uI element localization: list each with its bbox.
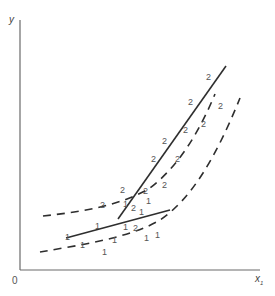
solid-boundary-class-2	[118, 66, 226, 219]
point-label-1: 1	[155, 230, 160, 240]
point-label-2: 2	[188, 97, 193, 107]
point-label-1: 1	[102, 247, 107, 257]
point-label-2: 2	[175, 154, 180, 164]
point-label-2: 2	[162, 180, 167, 190]
point-label-2: 2	[218, 101, 223, 111]
point-label-1: 1	[144, 233, 149, 243]
point-label-2: 2	[133, 223, 138, 233]
x-axis-label: x1	[254, 273, 263, 286]
point-label-2: 2	[151, 154, 156, 164]
dashed-curve-lower	[40, 98, 240, 252]
point-label-2: 2	[183, 125, 188, 135]
point-label-1: 1	[112, 235, 117, 245]
point-label-2: 2	[162, 136, 167, 146]
dashed-curve-upper	[43, 94, 215, 216]
point-label-2: 2	[100, 200, 105, 210]
y-axis-label: y	[8, 14, 15, 25]
point-label-1: 1	[80, 240, 85, 250]
point-label-2: 2	[206, 72, 211, 82]
point-label-2: 2	[131, 203, 136, 213]
point-label-1: 1	[146, 196, 151, 206]
point-label-2: 2	[201, 119, 206, 129]
point-label-2: 2	[143, 186, 148, 196]
point-label-1: 1	[123, 222, 128, 232]
point-label-1: 1	[65, 232, 70, 242]
class-1-points: 1 1 1 1 1 1 1 1 1 1 1	[65, 196, 160, 257]
origin-label: 0	[12, 275, 18, 286]
scatter-diagram: y 0 x1 2 2 2 2 2 2 2 2 2 2 2 2 2 2 1 1 1…	[0, 0, 275, 296]
point-label-1: 1	[139, 207, 144, 217]
point-label-2: 2	[120, 185, 125, 195]
point-label-1: 1	[95, 221, 100, 231]
point-label-1: 1	[123, 199, 128, 209]
